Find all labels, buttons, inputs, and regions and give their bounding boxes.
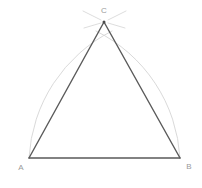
geometry-figure: A B C (0, 0, 202, 188)
vertex-label-C: C (101, 6, 107, 15)
arc-tip-upper-right (108, 11, 126, 20)
side-BC (104, 22, 180, 158)
vertex-labels: A B C (18, 6, 192, 172)
arc-tip-lower-right (108, 23, 125, 28)
triangle-outline (29, 22, 180, 158)
vertex-dot-C (103, 21, 106, 24)
vertex-label-B: B (186, 162, 192, 171)
side-AC (29, 22, 104, 158)
arc-centered-at-A (29, 31, 112, 158)
vertex-label-A: A (18, 163, 24, 172)
construction-canvas: A B C (0, 0, 202, 188)
construction-arcs (29, 31, 180, 158)
arc-tip-upper-left (83, 11, 101, 20)
arc-tip-lower-left (84, 23, 101, 28)
arc-centered-at-B (96, 31, 180, 158)
